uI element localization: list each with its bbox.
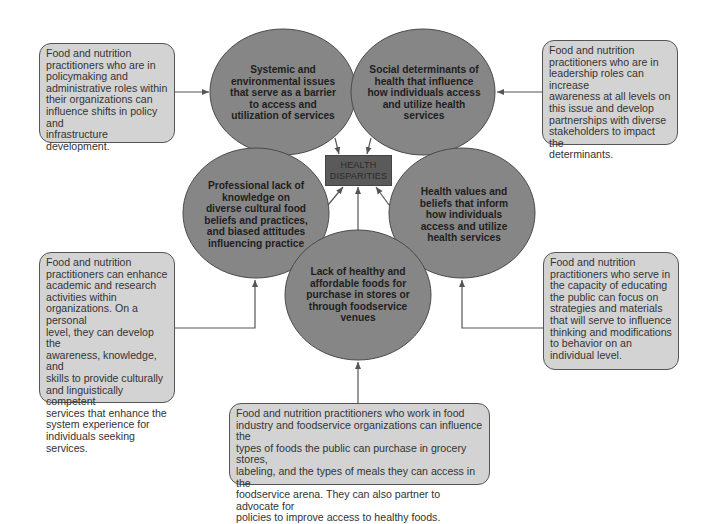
circle-text-social-determinants: Social determinants of health that influ… <box>356 64 492 122</box>
note-leadership: Food and nutrition practitioners who are… <box>542 40 678 145</box>
text-line: types of foods the public can purchase i… <box>236 443 483 466</box>
text-line: to behavior on an <box>550 338 672 350</box>
text-line: diverse cultural food <box>188 203 324 215</box>
text-line: individual level. <box>550 350 672 362</box>
text-line: environmental issues <box>215 76 351 88</box>
text-line: health that influence <box>356 76 492 88</box>
text-line: level, they can develop the <box>46 327 168 350</box>
circle-text-healthy-foods: Lack of healthy and affordable foods for… <box>290 266 426 324</box>
text-line: Lack of healthy and <box>290 266 426 278</box>
note-food-industry: Food and nutrition practitioners who wor… <box>229 403 490 485</box>
text-line: infrastructure development. <box>46 129 168 152</box>
note-academic: Food and nutrition practitioners can enh… <box>39 252 175 403</box>
text-line: how individuals access <box>356 87 492 99</box>
note-educating: Food and nutrition practitioners who ser… <box>543 252 679 370</box>
text-line: venues <box>290 312 426 324</box>
text-line: Food and nutrition practitioners who wor… <box>236 408 483 420</box>
arrow-social-to-center <box>367 138 371 154</box>
text-line: that serve as a barrier <box>215 87 351 99</box>
text-line: leadership roles can increase <box>549 68 671 91</box>
center-label-line2: DISPARITIES <box>326 171 391 182</box>
text-line: and linguistically competent <box>46 385 168 408</box>
text-line: beliefs that inform <box>396 198 532 210</box>
text-line: stakeholders to impact the <box>549 126 671 149</box>
text-line: knowledge on <box>188 192 324 204</box>
text-line: services <box>356 110 492 122</box>
arrow-health-values-to-center <box>376 187 389 205</box>
text-line: foodservice arena. They can also partner… <box>236 489 483 512</box>
text-line: Food and nutrition <box>46 257 168 269</box>
text-line: policies to improve access to healthy fo… <box>236 512 483 524</box>
text-line: that will serve to influence <box>550 315 672 327</box>
arrow-systemic-to-center <box>335 138 339 154</box>
text-line: Food and nutrition <box>550 257 672 269</box>
text-line: this issue and develop <box>549 103 671 115</box>
connector-academic <box>175 280 255 328</box>
circle-text-health-values: Health values and beliefs that inform ho… <box>396 186 532 244</box>
text-line: organizations. On a personal <box>46 303 168 326</box>
circle-text-systemic: Systemic and environmental issues that s… <box>215 64 351 122</box>
text-line: determinants. <box>549 149 671 161</box>
arrow-professional-to-center <box>328 187 343 205</box>
text-line: purchase in stores or <box>290 289 426 301</box>
text-line: to access and <box>215 99 351 111</box>
health-disparities-box: HEALTH DISPARITIES <box>325 155 392 186</box>
text-line: how individuals <box>396 209 532 221</box>
text-line: through foodservice <box>290 301 426 313</box>
text-line: Social determinants of <box>356 64 492 76</box>
text-line: access and utilize <box>396 221 532 233</box>
circle-text-professional-knowledge: Professional lack of knowledge on divers… <box>188 180 324 250</box>
text-line: influencing practice <box>188 238 324 250</box>
text-line: and utilize health <box>356 99 492 111</box>
text-line: individuals seeking services. <box>46 431 168 454</box>
text-line: labeling, and the types of meals they ca… <box>236 466 483 489</box>
text-line: Food and nutrition <box>549 45 671 57</box>
text-line: utilization of services <box>215 110 351 122</box>
text-line: and biased attitudes <box>188 226 324 238</box>
text-line: Health values and <box>396 186 532 198</box>
center-label-line1: HEALTH <box>326 160 391 171</box>
text-line: beliefs and practices, <box>188 215 324 227</box>
text-line: influence shifts in policy and <box>46 106 168 129</box>
text-line: awareness, knowledge, and <box>46 350 168 373</box>
text-line: Systemic and <box>215 64 351 76</box>
text-line: industry and foodservice organizations c… <box>236 420 483 443</box>
text-line: health services <box>396 232 532 244</box>
text-line: Professional lack of <box>188 180 324 192</box>
text-line: skills to provide culturally <box>46 373 168 385</box>
text-line: affordable foods for <box>290 278 426 290</box>
note-policymaking: Food and nutrition practitioners who are… <box>39 43 175 143</box>
connector-educating <box>462 280 543 328</box>
text-line: Food and nutrition <box>46 48 168 60</box>
